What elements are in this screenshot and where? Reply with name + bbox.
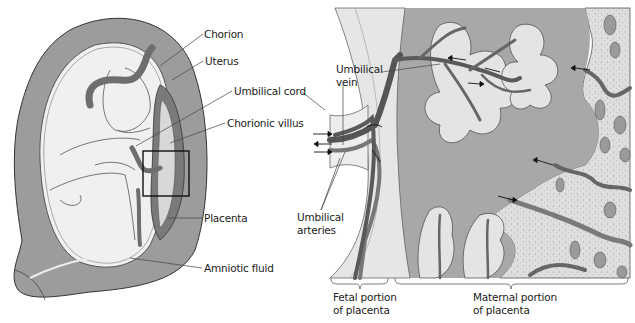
- placenta-diagram: Chorion Uterus Umbilical cord Chorionic …: [0, 0, 635, 323]
- label-placenta: Placenta: [204, 212, 248, 224]
- uterine-cavity: [40, 43, 170, 267]
- label-umbilical-vein-line1: Umbilical: [336, 63, 383, 76]
- label-amniotic-fluid: Amniotic fluid: [204, 262, 274, 274]
- label-chorionic-villus: Chorionic villus: [227, 117, 304, 129]
- label-umbilical-arteries-line1: Umbilical: [297, 211, 344, 224]
- label-uterus: Uterus: [205, 55, 239, 67]
- label-maternal-portion: Maternal portion of placenta: [473, 291, 557, 317]
- label-maternal-portion-line1: Maternal portion: [473, 291, 557, 304]
- label-umbilical-arteries-line2: arteries: [297, 224, 344, 237]
- diagram-artwork: [0, 0, 635, 323]
- label-fetal-portion-line2: of placenta: [333, 304, 397, 317]
- label-umbilical-cord: Umbilical cord: [234, 85, 306, 97]
- label-umbilical-arteries: Umbilical arteries: [297, 211, 344, 237]
- label-umbilical-vein-line2: vein: [336, 76, 383, 89]
- label-chorion: Chorion: [204, 28, 243, 40]
- label-fetal-portion: Fetal portion of placenta: [333, 291, 397, 317]
- label-umbilical-vein: Umbilical vein: [336, 63, 383, 89]
- label-fetal-portion-line1: Fetal portion: [333, 291, 397, 304]
- label-maternal-portion-line2: of placenta: [473, 304, 557, 317]
- bracket-maternal: [395, 278, 628, 289]
